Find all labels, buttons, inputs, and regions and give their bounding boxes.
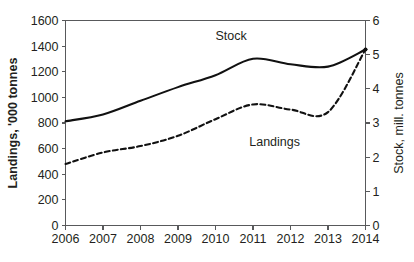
chart-background xyxy=(0,0,414,262)
right-tick-label: 1 xyxy=(373,185,380,199)
left-tick-label: 1400 xyxy=(31,40,59,54)
left-tick-label: 800 xyxy=(38,116,59,130)
x-tick-label: 2013 xyxy=(314,232,342,246)
x-tick-label: 2010 xyxy=(202,232,230,246)
series-label-stock: Stock xyxy=(216,29,248,43)
left-tick-label: 1000 xyxy=(31,91,59,105)
x-tick-label: 2011 xyxy=(240,232,267,246)
x-tick-label: 2007 xyxy=(89,232,117,246)
right-tick-label: 4 xyxy=(373,82,380,96)
chart-figure: 02004006008001000120014001600 0123456 20… xyxy=(0,0,414,262)
x-tick-label: 2009 xyxy=(164,232,192,246)
right-axis-title: Stock, mill. tonnes xyxy=(392,72,406,173)
x-tick-label: 2014 xyxy=(352,232,380,246)
x-tick-label: 2008 xyxy=(127,232,155,246)
left-axis-title: Landings, '000 tonnes xyxy=(6,58,20,189)
right-tick-label: 5 xyxy=(373,48,380,62)
left-tick-label: 400 xyxy=(38,168,59,182)
left-tick-label: 1200 xyxy=(31,65,59,79)
x-tick-label: 2006 xyxy=(52,232,80,246)
left-tick-label: 1600 xyxy=(31,14,59,28)
left-tick-label: 200 xyxy=(38,193,59,207)
x-tick-label: 2012 xyxy=(277,232,305,246)
left-tick-label: 600 xyxy=(38,142,59,156)
line-chart: 02004006008001000120014001600 0123456 20… xyxy=(0,0,414,262)
endpoint-dot-landings xyxy=(364,47,368,51)
right-tick-label: 6 xyxy=(373,14,380,28)
right-tick-label: 2 xyxy=(373,151,380,165)
series-label-landings: Landings xyxy=(249,135,300,149)
right-tick-label: 3 xyxy=(373,116,380,130)
